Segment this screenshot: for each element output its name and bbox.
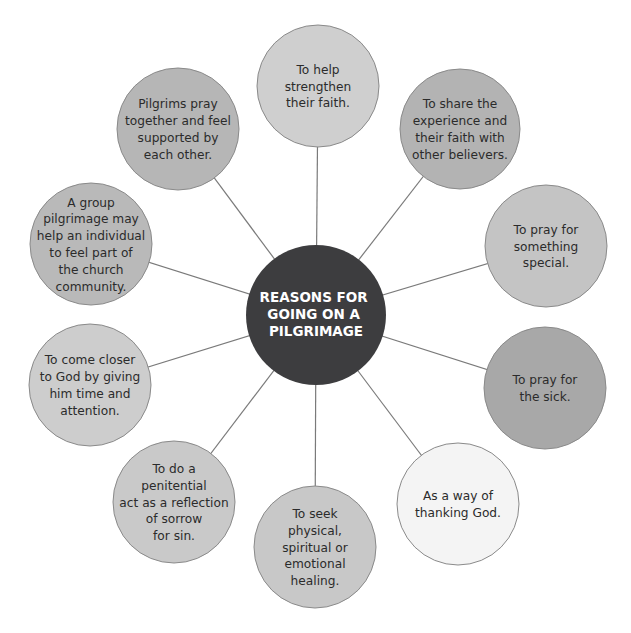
hub-title-line: PILGRIMAGE: [269, 323, 363, 339]
node-label-line: spiritual or: [282, 541, 349, 555]
node-label-line: community.: [56, 280, 127, 294]
node-label-line: to feel part of: [49, 246, 133, 260]
node-label-line: together and feel: [125, 114, 231, 128]
node-label-line: physical,: [288, 524, 342, 538]
node-penitential-act: To do apenitentialact as a reflectionof …: [113, 441, 235, 563]
pilgrimage-mind-map: To helpstrengthentheir faith.To share th…: [0, 0, 631, 633]
node-label-line: the church: [58, 263, 123, 277]
node-pray-something-special: To pray forsomethingspecial.: [485, 185, 607, 307]
node-label-line: thanking God.: [415, 506, 501, 520]
node-label-line: To pray for: [513, 223, 580, 237]
node-circle: [117, 68, 239, 190]
node-circle: [400, 69, 520, 189]
node-label-line: strengthen: [285, 80, 352, 94]
node-label-line: experience and: [413, 114, 507, 128]
node-label-line: each other.: [144, 148, 213, 162]
node-label-line: To share the: [422, 97, 497, 111]
node-label-line: pilgrimage may: [43, 212, 139, 226]
node-label-line: him time and: [49, 387, 130, 401]
node-label-line: special.: [523, 256, 569, 270]
node-seek-healing: To seekphysical,spiritual oremotionalhea…: [254, 486, 376, 608]
node-label-line: To do a: [151, 462, 195, 476]
node-label-line: of sorrow: [146, 512, 202, 526]
hub-title-line: GOING ON A: [267, 306, 360, 322]
node-label-line: to God by giving: [40, 370, 141, 384]
node-strengthen-faith: To helpstrengthentheir faith.: [257, 25, 379, 147]
hub: REASONS FOR GOING ON A PILGRIMAGE: [246, 245, 386, 385]
node-label-line: Pilgrims pray: [138, 97, 218, 111]
node-label-line: To pray for: [512, 373, 579, 387]
node-pray-together: Pilgrims praytogether and feelsupported …: [117, 68, 239, 190]
node-label-line: healing.: [291, 574, 340, 588]
node-group-pilgrimage: A grouppilgrimage mayhelp an individualt…: [30, 183, 152, 305]
node-label-line: To come closer: [44, 353, 136, 367]
node-label-line: attention.: [60, 404, 119, 418]
node-label-line: other believers.: [412, 148, 508, 162]
node-circle: [484, 327, 606, 449]
node-circle: [29, 324, 151, 446]
node-label-line: penitential: [141, 479, 206, 493]
node-label-line: supported by: [138, 131, 219, 145]
node-label-line: help an individual: [37, 229, 145, 243]
node-label-line: something: [514, 240, 579, 254]
node-label-line: their faith.: [286, 96, 350, 110]
node-label-line: emotional: [284, 557, 345, 571]
node-share-experience: To share theexperience andtheir faith wi…: [400, 69, 520, 189]
node-label-line: A group: [67, 196, 115, 210]
node-label-line: the sick.: [519, 390, 570, 404]
node-circle: [397, 443, 519, 565]
node-label-line: To seek: [291, 507, 338, 521]
node-come-closer-to-god: To come closerto God by givinghim time a…: [29, 324, 151, 446]
node-thanking-god: As a way ofthanking God.: [397, 443, 519, 565]
node-label-line: To help: [295, 63, 339, 77]
node-label-line: for sin.: [153, 529, 195, 543]
node-label-line: As a way of: [423, 489, 494, 503]
node-label-line: their faith with: [415, 131, 505, 145]
node-label-line: act as a reflection: [119, 496, 228, 510]
node-pray-for-sick: To pray forthe sick.: [484, 327, 606, 449]
hub-title-line: REASONS FOR: [260, 289, 369, 305]
hub-title: REASONS FOR GOING ON A PILGRIMAGE: [260, 289, 373, 339]
